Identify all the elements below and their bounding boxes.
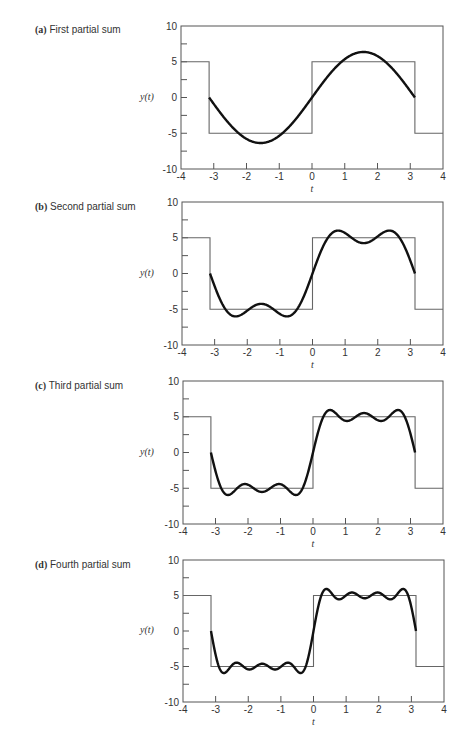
x-tick-label: -2 [242,171,251,182]
y-tick-label: 10 [166,21,178,32]
x-tick-label: 1 [343,526,349,537]
y-tick-label: 10 [168,376,180,387]
y-tick-label: 5 [173,590,179,601]
chart-panel-a: -10-50510-4-3-2-101234t [163,21,447,195]
x-tick-label: 4 [440,526,446,537]
x-tick-label: -2 [243,347,252,358]
x-tick-label: -4 [179,704,188,715]
x-tick-label: 1 [342,171,348,182]
x-tick-label: -4 [179,526,188,537]
y-tick-label: 5 [171,56,177,67]
y-tick-label: -10 [165,519,180,530]
x-tick-label: -2 [244,704,253,715]
x-tick-label: 3 [409,704,415,715]
x-tick-label: 2 [375,347,381,358]
x-tick-label: 2 [375,171,381,182]
y-tick-label: 0 [172,268,178,279]
chart-panel-b: -10-50510-4-3-2-101234t [164,197,447,371]
y-tick-label: 10 [168,555,180,566]
chart-panel-d: -10-50510-4-3-2-101234t [165,555,448,728]
x-axis-label: t [311,359,314,370]
x-axis-label: t [312,538,315,549]
x-tick-label: 4 [440,347,446,358]
x-tick-label: -3 [209,171,218,182]
x-tick-label: 0 [311,704,317,715]
x-tick-label: -1 [275,347,284,358]
x-tick-label: -3 [210,347,219,358]
x-tick-label: 1 [342,347,348,358]
y-tick-label: 0 [173,447,179,458]
y-tick-label: -5 [170,483,179,494]
x-tick-label: 0 [310,347,316,358]
chart-panel-c: -10-50510-4-3-2-101234t [165,376,447,550]
y-tick-label: 0 [173,626,179,637]
x-tick-label: 2 [376,704,382,715]
x-tick-label: 0 [309,171,315,182]
y-tick-label: 5 [173,411,179,422]
x-tick-label: -3 [211,526,220,537]
y-tick-label: -10 [164,340,179,351]
figure-plots: -10-50510-4-3-2-101234t-10-50510-4-3-2-1… [0,0,472,736]
y-tick-label: -5 [168,128,177,139]
y-tick-label: -10 [163,164,178,175]
x-tick-label: 0 [310,526,316,537]
x-axis-label: t [311,183,314,194]
x-tick-label: 1 [343,704,349,715]
y-tick-label: 0 [171,92,177,103]
y-tick-label: -5 [169,304,178,315]
x-tick-label: 3 [408,526,414,537]
x-tick-label: -2 [244,526,253,537]
x-tick-label: 3 [408,347,414,358]
y-tick-label: 10 [167,197,179,208]
x-tick-label: -4 [178,347,187,358]
x-tick-label: -1 [275,171,284,182]
x-tick-label: 4 [441,704,447,715]
y-tick-label: -10 [165,697,180,708]
x-tick-label: -1 [276,704,285,715]
x-tick-label: 2 [375,526,381,537]
y-tick-label: 5 [172,232,178,243]
y-tick-label: -5 [170,661,179,672]
x-tick-label: -1 [276,526,285,537]
x-tick-label: -3 [211,704,220,715]
x-tick-label: 3 [407,171,413,182]
x-tick-label: 4 [440,171,446,182]
x-axis-label: t [312,716,315,727]
x-tick-label: -4 [177,171,186,182]
